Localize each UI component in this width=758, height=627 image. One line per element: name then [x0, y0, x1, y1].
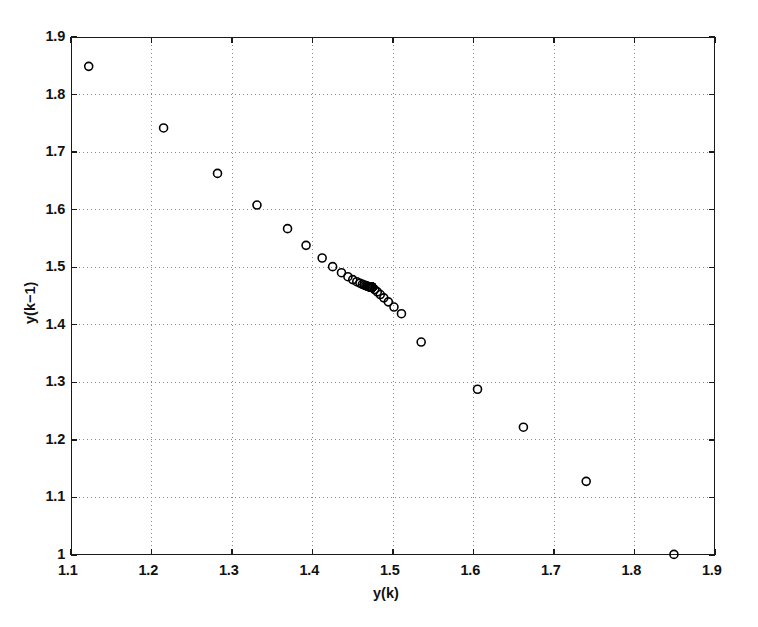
y-tick-label: 1 [25, 546, 65, 562]
x-tick-label: 1.2 [139, 562, 159, 578]
chart-canvas [0, 0, 758, 627]
y-tick-label: 1.3 [25, 373, 65, 389]
data-points-group [85, 62, 678, 558]
y-tick-label: 1.2 [25, 431, 65, 447]
y-tick-label: 1.6 [25, 201, 65, 217]
y-tick-label: 1.5 [25, 258, 65, 274]
x-axis-title: y(k) [373, 585, 399, 601]
x-tick-label: 1.3 [219, 562, 239, 578]
x-tick-label: 1.5 [380, 562, 400, 578]
gridlines-group [71, 37, 715, 555]
x-tick-label: 1.8 [622, 562, 642, 578]
y-tick-label: 1.9 [25, 28, 65, 44]
y-tick-label: 1.7 [25, 143, 65, 159]
x-tick-label: 1.4 [300, 562, 320, 578]
figure-container: 1.11.21.31.41.51.61.71.81.9 11.11.21.31.… [0, 0, 758, 627]
y-tick-label: 1.8 [25, 86, 65, 102]
x-tick-label: 1.9 [702, 562, 722, 578]
x-tick-label: 1.6 [461, 562, 481, 578]
y-axis-title: y(k−1) [22, 282, 38, 324]
y-tick-label: 1.1 [25, 488, 65, 504]
x-tick-label: 1.1 [58, 562, 78, 578]
x-tick-label: 1.7 [541, 562, 561, 578]
